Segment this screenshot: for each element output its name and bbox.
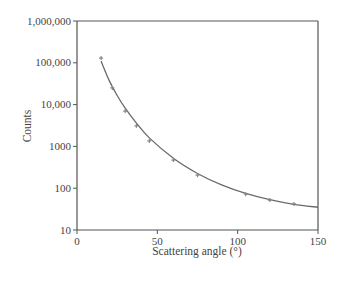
data-point: [99, 56, 103, 60]
y-tick-label: 1,000,000: [27, 15, 72, 27]
x-tick-label: 150: [310, 235, 327, 247]
y-tick-label: 100,000: [35, 56, 71, 68]
plot-frame: [77, 21, 318, 230]
y-axis-title: Counts: [21, 109, 33, 142]
y-axis-ticks: 10100100010,000100,0001,000,000: [27, 15, 77, 236]
y-tick-label: 100: [55, 182, 72, 194]
y-tick-label: 1000: [49, 140, 72, 152]
curve-path: [101, 61, 318, 207]
y-tick-label: 10: [60, 224, 72, 236]
fit-curve: [101, 61, 318, 207]
data-point: [268, 198, 272, 202]
x-axis-title: Scattering angle (°): [152, 245, 242, 258]
x-tick-label: 0: [74, 235, 80, 247]
data-point: [292, 202, 296, 206]
scattering-chart: 10100100010,000100,0001,000,000 05010015…: [0, 0, 337, 281]
data-points: [99, 56, 296, 206]
y-tick-label: 10,000: [41, 98, 72, 110]
